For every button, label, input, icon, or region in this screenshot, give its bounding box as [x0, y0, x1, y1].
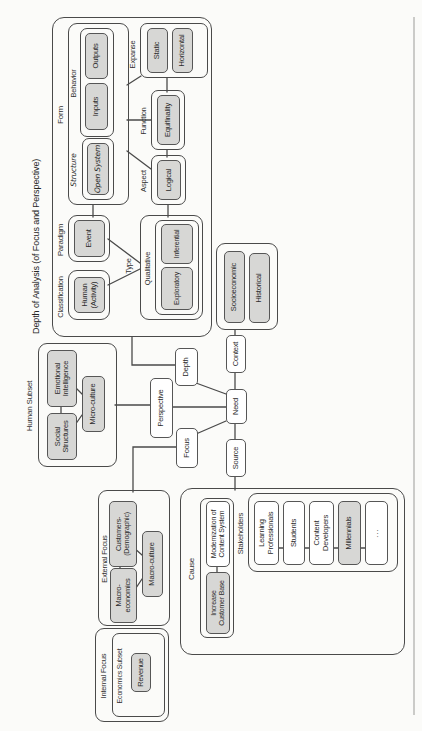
economics-subset-label: Economics Subset — [116, 635, 123, 717]
node-perspective: Perspective — [150, 378, 173, 438]
node-source: Source — [226, 439, 246, 477]
scanned-figure-page: Depth of Analysis (of Focus and Perspect… — [0, 0, 422, 731]
external-focus-label: External Focus — [101, 492, 109, 626]
node-exploratory: Exploratory — [161, 267, 193, 310]
type-label: Type — [125, 246, 133, 286]
node-modernization-of-content-system: Modernization of Content System — [206, 501, 230, 567]
node-outputs: Outputs — [85, 33, 108, 79]
node-event: Event — [74, 220, 105, 257]
internal-focus-label: Internal Focus — [100, 630, 108, 722]
node-equifinality: Equifinality — [157, 95, 180, 145]
node-social-structures: Social Structures — [47, 413, 77, 460]
node-micro-culture: Micro-culture — [82, 376, 105, 432]
node-customers-demographic: Customers- (Demographic) — [109, 501, 137, 567]
node-students: Students — [283, 501, 305, 565]
expanse-label: Expanse — [129, 28, 137, 81]
structure-label: Structure — [70, 140, 78, 200]
node-logical: Logical — [157, 160, 181, 200]
node-horizontal: Horizontal — [172, 28, 193, 73]
node-static: Static — [147, 28, 168, 73]
figure-title: Depth of Analysis (of Focus and Perspect… — [31, 159, 41, 334]
diagram-canvas: Depth of Analysis (of Focus and Perspect… — [0, 0, 422, 731]
node-learning-professionals: Learning Professionals — [254, 501, 279, 565]
node-need: Need — [226, 389, 247, 424]
node-content-developers: Content Developers — [309, 501, 334, 565]
form-label: Form — [57, 25, 65, 205]
qualitative-label: Qualitative — [144, 217, 152, 320]
aspect-label: Aspect — [140, 157, 148, 205]
classification-label: Classification — [57, 271, 65, 323]
node-focus: Focus — [176, 428, 198, 468]
node-context: Context — [226, 335, 246, 373]
node-inferential: Inferential — [161, 224, 193, 264]
human-subset-label: Human Subset — [26, 345, 34, 467]
stakeholders-label: Stakeholders — [237, 495, 245, 572]
node-emotional-intelligence: Emotional Intelligence — [47, 350, 77, 407]
node-open-system: Open System — [87, 143, 109, 195]
node-inputs: Inputs — [85, 83, 108, 130]
function-label: Function — [140, 92, 148, 150]
node-macro-economics: Macro- economics — [110, 568, 137, 623]
paradigm-label: Paradigm — [57, 216, 65, 264]
node-increase-customer-base: Increase Customer Base — [206, 572, 230, 634]
node-more: ... — [365, 501, 388, 565]
cause-label: Cause — [188, 500, 196, 638]
node-historical: Historical — [249, 253, 270, 323]
node-millennials: Millennials — [338, 501, 361, 565]
node-socioeconomic: Socioeconomic — [224, 251, 245, 323]
node-revenue: Revenue — [131, 653, 151, 692]
behavior-label: Behavior — [70, 30, 78, 137]
node-macro-culture: Macro-culture — [142, 531, 163, 597]
node-depth: Depth — [175, 348, 198, 386]
node-human-activity: Human (Activity) — [74, 277, 105, 313]
